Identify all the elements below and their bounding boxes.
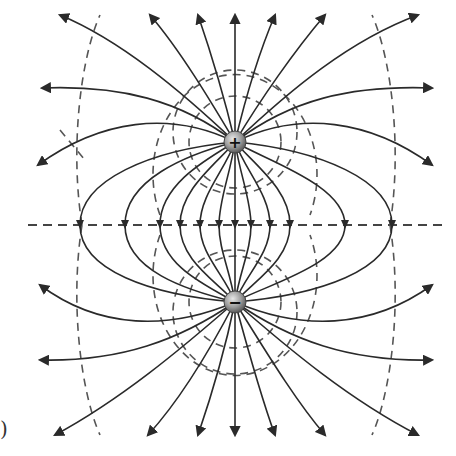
minus-symbol: − [228,293,241,312]
dipole-diagram: + − ) [0,0,456,456]
positive-charge: + [224,131,246,153]
panel-label: ) [0,417,8,441]
equipotentials-negative [77,225,395,435]
dipole-field-svg: + − [0,0,456,456]
plus-symbol: + [228,133,241,152]
equipotentials-positive [60,15,395,225]
negative-charge: − [224,291,246,313]
